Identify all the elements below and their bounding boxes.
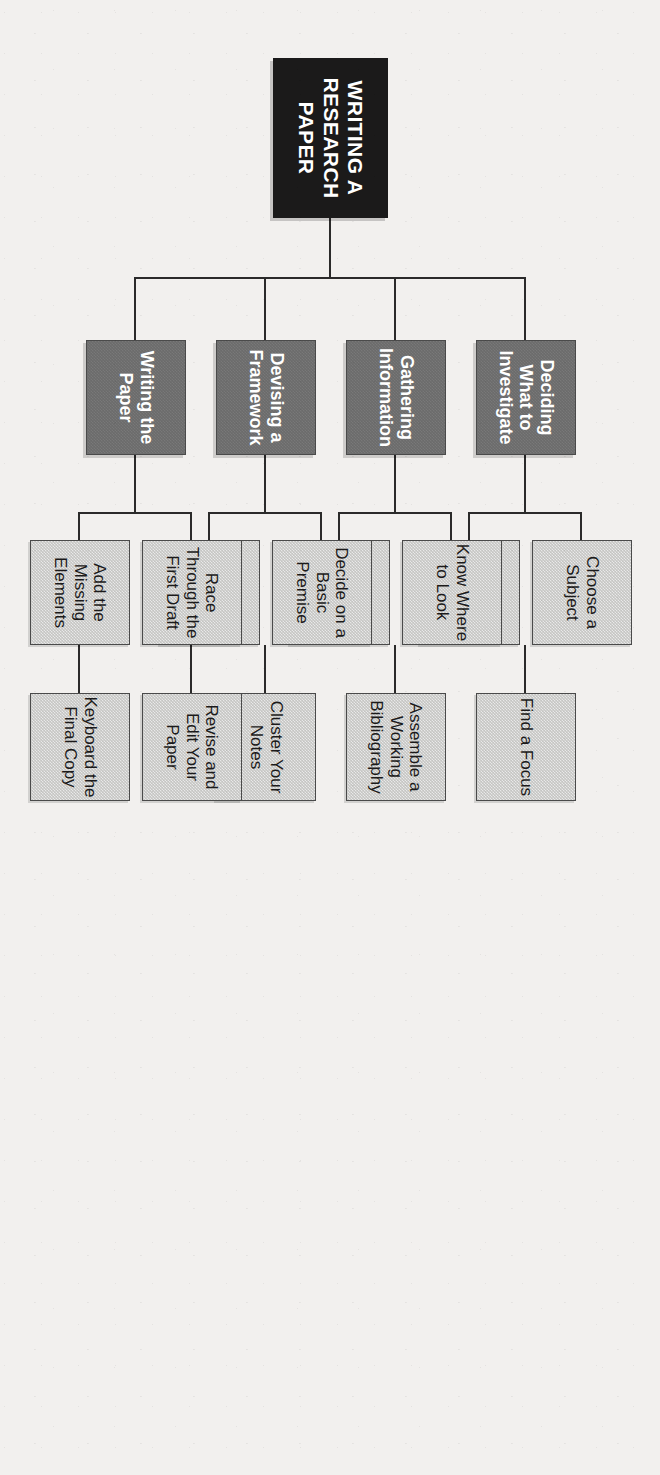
node-branch-2-label: Gathering Information (375, 341, 416, 454)
node-choose-a-subject[interactable]: Choose a Subject (532, 540, 632, 645)
connector-branch1-to-child3 (524, 645, 526, 693)
connector-branch4-to-child1 (190, 512, 192, 540)
node-race-through-the-first-draft[interactable]: Race Through the First Draft (142, 540, 242, 645)
node-b4c2-label: Add the Missing Elements (51, 541, 110, 644)
node-b1c1-label: Choose a Subject (562, 541, 601, 644)
node-b4c3-label: Revise and Edit Your Paper (163, 694, 222, 800)
connector-branch1-to-child1 (580, 512, 582, 540)
node-branch-gathering-information[interactable]: Gathering Information (346, 340, 446, 455)
node-root[interactable]: WRITING A RESEARCH PAPER (273, 58, 388, 218)
connector-spine-to-branch-1 (524, 277, 526, 340)
connector-branch3-to-child3 (264, 645, 266, 693)
node-branch-4-label: Writing the Paper (115, 341, 156, 454)
node-branch-3-label: Devising a Framework (245, 341, 286, 454)
connector-branch4-to-child2 (78, 512, 80, 540)
node-b2c3-label: Assemble a Working Bibliography (367, 694, 426, 800)
node-branch-devising-a-framework[interactable]: Devising a Framework (216, 340, 316, 455)
diagram-rotated-layer: WRITING A RESEARCH PAPER Deciding What t… (0, 0, 660, 1475)
node-revise-and-edit-your-paper[interactable]: Revise and Edit Your Paper (142, 693, 242, 801)
node-decide-on-a-basic-premise[interactable]: Decide on a Basic Premise (272, 540, 372, 645)
node-b1c3-label: Find a Focus (516, 694, 536, 800)
connector-branch1-fork (470, 512, 582, 514)
connector-branch4-to-child4 (78, 645, 80, 693)
diagram-canvas: WRITING A RESEARCH PAPER Deciding What t… (0, 0, 660, 1475)
connector-branch4-out (134, 455, 136, 513)
connector-branch3-out (264, 455, 266, 513)
connector-branch1-to-child2 (468, 512, 470, 540)
node-keyboard-the-final-copy[interactable]: Keyboard the Final Copy (30, 693, 130, 801)
node-b4c4-label: Keyboard the Final Copy (60, 694, 99, 800)
connector-spine (134, 277, 526, 279)
node-b3c3-label: Cluster Your Notes (246, 694, 285, 800)
connector-branch2-to-child3 (394, 645, 396, 693)
connector-branch3-fork (210, 512, 322, 514)
connector-spine-to-branch-3 (264, 277, 266, 340)
connector-branch3-to-child1 (320, 512, 322, 540)
node-assemble-a-working-bibliography[interactable]: Assemble a Working Bibliography (346, 693, 446, 801)
connector-branch3-to-child2 (208, 512, 210, 540)
connector-spine-to-branch-4 (134, 277, 136, 340)
node-b4c1-label: Race Through the First Draft (163, 541, 222, 644)
node-root-label: WRITING A RESEARCH PAPER (294, 59, 366, 217)
node-add-the-missing-elements[interactable]: Add the Missing Elements (30, 540, 130, 645)
connector-branch2-to-child1 (450, 512, 452, 540)
node-branch-deciding-what-to-investigate[interactable]: Deciding What to Investigate (476, 340, 576, 455)
node-b3c1-label: Decide on a Basic Premise (293, 541, 352, 644)
connector-branch4-to-child3 (190, 645, 192, 693)
connector-root-to-spine (329, 218, 331, 278)
connector-branch4-fork (80, 512, 192, 514)
connector-spine-to-branch-2 (394, 277, 396, 340)
node-branch-writing-the-paper[interactable]: Writing the Paper (86, 340, 186, 455)
node-b2c1-label: Know Where to Look (432, 541, 471, 644)
node-know-where-to-look[interactable]: Know Where to Look (402, 540, 502, 645)
connector-branch2-out (394, 455, 396, 513)
node-find-a-focus[interactable]: Find a Focus (476, 693, 576, 801)
connector-branch1-out (524, 455, 526, 513)
connector-branch2-to-child2 (338, 512, 340, 540)
node-branch-1-label: Deciding What to Investigate (495, 341, 557, 454)
connector-branch2-fork (340, 512, 452, 514)
